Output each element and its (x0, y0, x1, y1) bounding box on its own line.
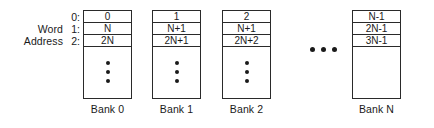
bank-caption-1: Bank 1 (152, 103, 201, 116)
vertical-ellipsis-icon (245, 61, 249, 83)
bank-1-cell-2: 2N+1 (153, 35, 200, 47)
word-address-axis-labels: Word Address 0: 1: 2: (0, 10, 83, 48)
axis-label-line1: Word (0, 23, 63, 35)
bank-0-cell-1: N (84, 23, 131, 35)
bank-column-n: N-1 2N-1 3N-1 (352, 10, 401, 99)
bank-n-cell-2: 3N-1 (353, 35, 400, 47)
row-index-2: 2: (64, 35, 80, 47)
horizontal-ellipsis-icon (306, 43, 340, 55)
bank-0-continuation-cell (84, 47, 131, 97)
bank-1-cell-0: 1 (153, 11, 200, 23)
vertical-ellipsis-icon (175, 61, 179, 83)
bank-2-continuation-cell (223, 47, 270, 97)
bank-2-cell-0: 2 (223, 11, 270, 23)
bank-1-continuation-cell (153, 47, 200, 97)
bank-2-cell-1: N+1 (223, 23, 270, 35)
axis-label-line2: Address (0, 35, 63, 47)
bank-n-cell-1: 2N-1 (353, 23, 400, 35)
bank-2-cell-2: 2N+2 (223, 35, 270, 47)
bank-caption-n: Bank N (352, 103, 401, 116)
bank-0-cell-2: 2N (84, 35, 131, 47)
bank-caption-0: Bank 0 (83, 103, 132, 116)
bank-caption-2: Bank 2 (222, 103, 271, 116)
bank-column-2: 2 N+1 2N+2 (222, 10, 271, 99)
bank-column-0: 0 N 2N (83, 10, 132, 99)
bank-n-cell-0: N-1 (353, 11, 400, 23)
vertical-ellipsis-icon (106, 61, 110, 83)
row-index-0: 0: (64, 11, 80, 23)
row-index-1: 1: (64, 23, 80, 35)
bank-column-1: 1 N+1 2N+1 (152, 10, 201, 99)
bank-1-cell-1: N+1 (153, 23, 200, 35)
bank-n-continuation-cell (353, 47, 400, 97)
bank-0-cell-0: 0 (84, 11, 131, 23)
memory-bank-diagram: Word Address 0: 1: 2: 0 N 2N Bank 0 1 N+… (0, 0, 434, 128)
